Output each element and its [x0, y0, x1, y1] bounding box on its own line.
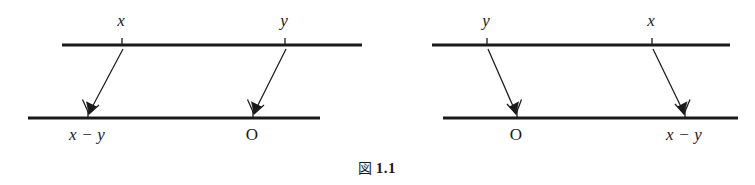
left-panel-label-y-top: y: [280, 12, 288, 29]
figure-caption: 図1.1: [358, 157, 396, 177]
right-panel-arrow-y-to-origin: [488, 49, 522, 114]
arrow-shaft: [254, 49, 286, 113]
right-panel-arrow-x-to-x-minus-y: [653, 49, 690, 114]
figure-caption-kanji-glyph: 図: [358, 160, 373, 176]
arrow-shaft: [488, 49, 516, 113]
left-panel-arrow-y-to-origin: [248, 49, 287, 114]
arrow-shaft: [653, 49, 684, 113]
left-panel-label-x-minus-y-bottom: x − y: [69, 126, 105, 143]
left-panel-label-x-top: x: [117, 12, 125, 29]
right-panel-label-y-top: y: [482, 12, 490, 29]
left-panel-arrow-x-to-x-minus-y: [83, 49, 124, 114]
figure-caption-number: 1.1: [376, 160, 396, 176]
right-panel: [432, 38, 738, 118]
right-panel-label-x-top: x: [647, 12, 655, 29]
figure-container: x y x − y O y x O x − y 図1.1: [0, 0, 755, 185]
left-panel-label-origin-bottom: O: [246, 126, 258, 143]
right-panel-label-x-minus-y-bottom: x − y: [666, 126, 702, 143]
right-panel-label-origin-bottom: O: [510, 126, 522, 143]
left-panel: [28, 38, 362, 118]
arrow-shaft: [89, 49, 123, 113]
